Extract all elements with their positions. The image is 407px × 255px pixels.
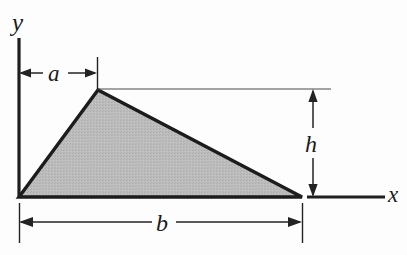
a-dimension-label: a (48, 61, 60, 86)
a-arrowhead-left (19, 69, 31, 78)
h-dimension-label: h (305, 131, 317, 157)
x-axis-label: x (387, 182, 399, 207)
a-arrowhead-right (85, 69, 97, 78)
h-arrowhead-top (308, 89, 317, 102)
y-axis-label: y (9, 9, 24, 36)
b-arrowhead-left (19, 217, 33, 227)
b-arrowhead-right (288, 217, 302, 227)
triangle-shape (19, 90, 302, 197)
h-arrowhead-bottom (308, 184, 317, 197)
triangle-centroid-diagram: y x a b h (0, 0, 407, 255)
b-dimension-label: b (156, 210, 168, 236)
figure-container: y x a b h (0, 0, 407, 255)
